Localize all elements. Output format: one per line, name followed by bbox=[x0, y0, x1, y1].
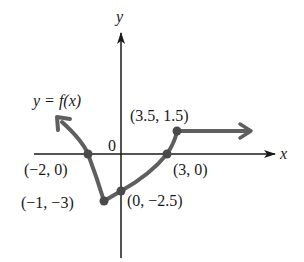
point-0-neg2.5 bbox=[117, 187, 126, 196]
curve-left-branch bbox=[62, 122, 104, 201]
label-point-3-0: (3, 0) bbox=[173, 161, 208, 179]
point-3-0 bbox=[163, 150, 172, 159]
point-neg2-0 bbox=[84, 150, 93, 159]
label-point-0-neg2.5: (0, −2.5) bbox=[127, 192, 183, 210]
function-graph: y x 0 y = f(x) (−2, 0) (−1, −3) (0, −2.5… bbox=[0, 0, 304, 262]
point-3.5-1.5 bbox=[173, 127, 182, 136]
x-axis-label: x bbox=[279, 145, 287, 162]
label-point-neg1-neg3: (−1, −3) bbox=[21, 194, 74, 212]
function-label: y = f(x) bbox=[31, 92, 81, 110]
origin-label: 0 bbox=[108, 137, 116, 154]
label-point-neg2-0: (−2, 0) bbox=[24, 161, 68, 179]
label-point-3.5-1.5: (3.5, 1.5) bbox=[130, 107, 189, 125]
y-axis-label: y bbox=[114, 8, 124, 26]
point-neg1-neg3 bbox=[100, 197, 109, 206]
